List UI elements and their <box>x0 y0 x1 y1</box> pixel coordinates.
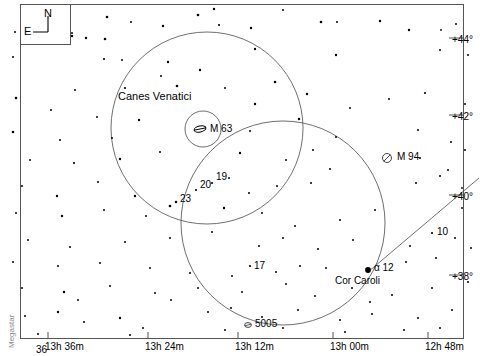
star-dot <box>254 103 256 105</box>
star-dot <box>12 261 14 263</box>
star-dot <box>57 311 59 313</box>
labeled-star-dot <box>195 189 197 191</box>
star-dot <box>129 334 131 336</box>
star-dot <box>228 177 230 179</box>
star-dot <box>285 283 287 285</box>
star-dot <box>294 225 296 227</box>
star-dot <box>405 261 407 263</box>
star-dot <box>349 107 351 109</box>
star-dot <box>213 8 215 10</box>
dec-label-1: +42° <box>452 112 473 122</box>
star-dot <box>74 89 76 91</box>
star-dot <box>69 246 71 248</box>
star-dot <box>223 207 225 209</box>
labeled-star-dot <box>211 182 213 184</box>
star-dot <box>77 299 79 301</box>
star-dot <box>455 23 457 25</box>
star-dot <box>138 119 140 121</box>
star-dot <box>391 294 393 296</box>
labeled-star-dot <box>431 232 433 234</box>
star-dot <box>274 81 277 84</box>
constellation-label: Canes Venatici <box>118 91 191 102</box>
star-dot <box>320 21 323 24</box>
star-label-20: 20 <box>200 180 211 190</box>
star-dot <box>96 116 98 118</box>
star-dot <box>99 262 101 264</box>
star-dot <box>160 75 162 77</box>
dec-label-0: +44° <box>452 35 473 45</box>
star-dot <box>298 118 300 120</box>
star-dot <box>12 131 15 134</box>
star-dot <box>335 54 337 56</box>
star-dot <box>103 58 105 60</box>
star-dot <box>15 97 18 100</box>
star-dot <box>276 185 278 187</box>
star-dot <box>258 245 260 247</box>
ra-label-0: 13h 36m <box>45 342 84 352</box>
watermark-label: Megastar <box>8 315 16 348</box>
star-dot <box>408 29 410 31</box>
star-dot <box>167 61 169 63</box>
star-dot <box>124 87 126 89</box>
star-dot <box>339 219 341 221</box>
star-label--12: α 12 <box>374 263 394 273</box>
star-dot <box>250 27 252 29</box>
star-dot <box>104 38 107 41</box>
star-dot <box>419 157 421 159</box>
star-dot <box>335 136 337 138</box>
star-dot <box>24 315 26 317</box>
star-dot <box>451 309 453 311</box>
star-dot <box>199 69 201 71</box>
star-dot <box>415 182 417 184</box>
star-dot <box>21 287 23 289</box>
star-dot <box>170 299 172 301</box>
star-dot <box>63 291 65 293</box>
star-dot <box>275 271 277 273</box>
star-dot <box>124 241 126 243</box>
star-dot <box>388 98 390 100</box>
star-dot <box>14 31 16 33</box>
star-dot <box>130 21 132 23</box>
star-dot <box>197 287 199 289</box>
star-dot <box>71 32 73 34</box>
star-dot <box>467 54 469 56</box>
star-dot <box>197 14 200 17</box>
star-dot <box>109 285 111 287</box>
star-dot <box>282 237 284 239</box>
star-label-10: 10 <box>437 227 448 237</box>
star-dot <box>403 329 405 331</box>
labeled-star-dot <box>365 267 371 273</box>
star-dot <box>439 49 441 51</box>
labeled-star-dot <box>249 265 251 267</box>
star-dot <box>142 327 144 329</box>
star-dot <box>351 287 353 289</box>
star-dot <box>339 319 341 321</box>
star-name-cor-caroli: Cor Caroli <box>335 276 380 286</box>
star-dot <box>85 37 87 39</box>
star-dot <box>297 309 299 311</box>
star-dot <box>134 195 136 197</box>
star-dot <box>417 317 419 319</box>
star-dot <box>379 20 381 22</box>
star-dot <box>119 158 121 160</box>
star-dot <box>261 212 263 214</box>
star-dot <box>312 149 314 151</box>
star-dot <box>369 301 371 303</box>
star-dot <box>97 181 99 183</box>
star-dot <box>282 9 284 11</box>
star-dot <box>317 248 319 250</box>
star-dot <box>464 149 466 151</box>
star-dot <box>439 175 441 177</box>
star-dot <box>239 152 241 154</box>
star-dot <box>224 329 226 331</box>
star-dot <box>149 267 151 269</box>
star-dot <box>374 209 376 211</box>
star-dot <box>470 247 472 249</box>
star-dot <box>306 93 308 95</box>
compass-east-label: E <box>24 26 31 37</box>
chart-border <box>21 5 464 339</box>
star-dot <box>241 291 243 293</box>
star-dot <box>21 185 23 187</box>
deep-sky-label-m94: M 94 <box>397 152 419 162</box>
star-dot <box>12 56 14 58</box>
